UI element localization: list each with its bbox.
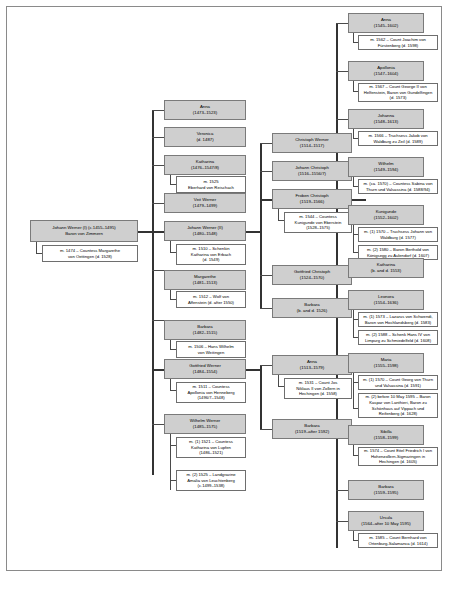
marriage-box: m. (1) 1570 – Truchsess Johann von Waldb… [358, 227, 438, 242]
person-dates: (1479–1499) [193, 203, 217, 209]
person-dates: (1564–after 10 May 1595) [361, 521, 410, 527]
person-node[interactable]: Katharina (b. and d. 1553) [348, 258, 424, 278]
connector [152, 110, 164, 111]
person-node[interactable]: Veit Werner (1479–1499) [164, 193, 246, 213]
connector [260, 199, 272, 201]
marriage-box: m. (ca. 1570) – Countess Sabina von Thur… [358, 179, 438, 194]
marriage-box: m. 1544 – Countess Kunigunde von Eberste… [284, 212, 352, 233]
connector [246, 231, 260, 233]
marriage-line: von Weitingen [198, 350, 224, 356]
connector [152, 203, 164, 204]
person-dates: (1519–1566) [300, 199, 324, 205]
connector [152, 320, 164, 321]
connector [260, 143, 262, 308]
person-dates: (1552–1602) [374, 215, 398, 221]
connector [260, 365, 272, 366]
marriage-line: (1496/7–1548) [197, 395, 224, 401]
connector [152, 424, 164, 425]
person-node[interactable]: Froben Christoph (1519–1566) [272, 189, 352, 209]
person-dates: (d. 1487) [196, 137, 213, 143]
person-dates: (1485–1575) [193, 424, 217, 430]
person-node[interactable]: Wilhelm Werner (1485–1575) [164, 414, 246, 434]
marriage-box: m. (1) 1521 – Countess Katharina von Lup… [176, 437, 246, 458]
person-node[interactable]: Anna (1473–1523) [164, 100, 246, 120]
person-node[interactable]: Gottfried Werner (1484–1554) [164, 359, 246, 379]
person-node[interactable]: Johanna (1548–1613) [348, 109, 424, 129]
person-dates: (1559–1595) [374, 490, 398, 496]
family-tree-canvas: Johann Werner (I) (c.1455–1495) Baron vo… [0, 0, 449, 591]
connector [260, 171, 272, 172]
person-node[interactable]: Barbara (1519–after 1592) [272, 419, 352, 439]
person-node[interactable]: Johann Christoph (1516–1556/7) [272, 161, 352, 181]
person-dates: Baron von Zimmern [65, 231, 103, 237]
connector [336, 521, 348, 522]
marriage-line: (c.1499–1538) [197, 483, 224, 489]
person-dates: (1480–1548) [193, 231, 217, 237]
person-node[interactable]: Johann Werner (I) (c.1455–1495) Baron vo… [30, 220, 138, 242]
marriage-box: m. 1567 – Count George II von Helfenstei… [358, 83, 438, 102]
person-node[interactable]: Barbara (b. and d. 1526) [272, 298, 352, 318]
marriage-line: Ortenburg-Salamanca (d. 1614) [368, 541, 427, 547]
marriage-box: m. 1474 – Countess Margarethe von Oettin… [42, 245, 138, 262]
person-dates: (1547–1604) [374, 71, 398, 77]
marriage-box: m. (2) before 10 May 1595 – Baron Kaspar… [358, 393, 438, 418]
person-node[interactable]: Margarethe (1481–1513) [164, 270, 246, 290]
marriage-box: m. (1) 1573 – Lazarus von Schwendi, Baro… [358, 312, 438, 327]
person-node[interactable]: Apollonia (1547–1604) [348, 61, 424, 81]
marriage-line: Fürstenberg (d. 1598) [378, 43, 419, 49]
person-dates: (1516–1556/7) [298, 171, 326, 177]
connector [152, 369, 164, 371]
person-node[interactable]: Ursula (1564–after 10 May 1595) [348, 511, 424, 531]
person-node[interactable]: Barbara (1482–1515) [164, 320, 246, 340]
connector [353, 225, 354, 253]
marriage-box: m. (2) 1525 – Landgravine Amalia von Leu… [176, 470, 246, 491]
person-dates: (1554–1636) [374, 300, 398, 306]
marriage-line: (d. 1549) [203, 257, 220, 263]
marriage-line: (1528–1575) [306, 225, 330, 231]
person-dates: (1524–1570) [300, 275, 324, 281]
marriage-line: von Oettingen (d. 1528) [68, 254, 112, 260]
person-dates: (1519–after 1592) [295, 429, 329, 435]
connector [152, 270, 164, 271]
connector [246, 369, 260, 371]
connector [353, 373, 354, 409]
marriage-box: m. (2) 1588 – Schenk Hans IV von Limpurg… [358, 330, 438, 345]
marriage-line: Affenstein (d. after 1550) [188, 300, 234, 306]
person-node[interactable]: Anna (1545–1602) [348, 13, 424, 33]
person-node[interactable]: Sibilla (1558–1599) [348, 425, 424, 445]
person-node[interactable]: Maria (1555–1598) [348, 353, 424, 373]
person-node[interactable]: Wilhelm (1549–1594) [348, 157, 424, 177]
person-dates: (1473–1523) [193, 110, 217, 116]
person-dates: (1558–1599) [374, 435, 398, 441]
connector [336, 23, 338, 548]
connector [170, 434, 171, 490]
person-dates: (1514–1517) [300, 143, 324, 149]
person-dates: (1484–1554) [193, 369, 217, 375]
person-node[interactable]: Johann Werner (II) (1480–1548) [164, 221, 246, 241]
connector [260, 143, 272, 144]
connector [336, 71, 348, 72]
connector [152, 231, 164, 233]
marriage-line: Thurn und Valsassina (d. 1588/94) [366, 187, 430, 193]
person-node[interactable]: Leonora (1554–1636) [348, 290, 424, 310]
person-node[interactable]: Kunigunde (1552–1602) [348, 205, 424, 225]
person-node[interactable]: Katharina (1476–1547/8) [164, 155, 246, 175]
person-dates: (1476–1547/8) [191, 165, 219, 171]
marriage-line: Reifenberg (d. 1628) [379, 411, 417, 417]
person-node[interactable]: Veronica (d. 1487) [164, 127, 246, 147]
person-node[interactable]: Christoph Werner (1514–1517) [272, 133, 352, 153]
person-dates: (1549–1594) [374, 167, 398, 173]
marriage-box: m. 1506 – Hans Wilhelm von Weitingen [176, 341, 246, 358]
connector [260, 308, 272, 309]
person-node[interactable]: Gottfried Christoph (1524–1570) [272, 265, 352, 285]
marriage-line: Waldburg zu Zeil (d. 1589) [373, 139, 422, 145]
connector [352, 199, 366, 201]
connector [260, 365, 262, 429]
marriage-box: m. (1) 1570 – Count Georg von Thurn und … [358, 375, 438, 390]
marriage-line: Hechingen (d. 1558) [299, 391, 337, 397]
person-node[interactable]: Anna (1513–1579) [272, 355, 352, 375]
connector [353, 310, 354, 338]
person-node[interactable]: Barbara (1559–1595) [348, 480, 424, 500]
connector [138, 231, 152, 233]
marriage-box: m. 1510 – Schenkin Katharina von Erbach … [176, 244, 246, 265]
